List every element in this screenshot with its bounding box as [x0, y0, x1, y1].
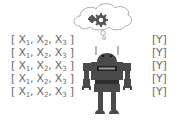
separator: ,	[30, 72, 37, 85]
var-x: X	[37, 85, 44, 98]
var-x: X	[18, 85, 25, 98]
var-x: X	[18, 33, 25, 46]
var-x: X	[18, 72, 25, 85]
separator: ,	[48, 59, 55, 72]
separator: ,	[30, 59, 37, 72]
input-row: [ X1, X2, X3 ]	[11, 59, 74, 72]
robot-icon	[82, 46, 132, 114]
input-row: [ X1, X2, X3 ]	[11, 72, 74, 85]
input-vectors: [ X1, X2, X3 ] [ X1, X2, X3 ] [ X1, X2, …	[11, 33, 74, 98]
separator: ,	[30, 46, 37, 59]
var-x: X	[37, 46, 44, 59]
close-bracket: ]	[66, 72, 73, 85]
output-label: [Y]	[152, 59, 167, 72]
output-label: [Y]	[152, 72, 167, 85]
var-x: X	[37, 72, 44, 85]
close-bracket: ]	[66, 59, 73, 72]
close-bracket: ]	[66, 33, 73, 46]
input-row: [ X1, X2, X3 ]	[11, 33, 74, 46]
separator: ,	[30, 85, 37, 98]
input-row: [ X1, X2, X3 ]	[11, 85, 74, 98]
close-bracket: ]	[66, 46, 73, 59]
output-label: [Y]	[152, 85, 167, 98]
input-row: [ X1, X2, X3 ]	[11, 46, 74, 59]
separator: ,	[48, 33, 55, 46]
output-labels: [Y] [Y] [Y] [Y] [Y]	[152, 33, 167, 98]
separator: ,	[48, 46, 55, 59]
separator: ,	[48, 72, 55, 85]
separator: ,	[30, 33, 37, 46]
close-bracket: ]	[66, 85, 73, 98]
var-x: X	[37, 59, 44, 72]
var-x: X	[18, 59, 25, 72]
var-x: X	[37, 33, 44, 46]
separator: ,	[48, 85, 55, 98]
var-x: X	[18, 46, 25, 59]
output-label: [Y]	[152, 46, 167, 59]
output-label: [Y]	[152, 33, 167, 46]
